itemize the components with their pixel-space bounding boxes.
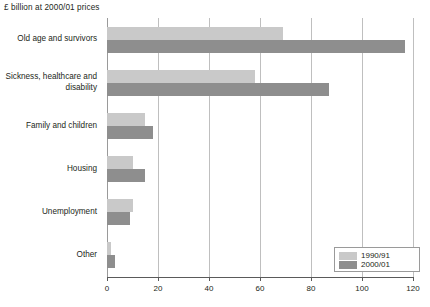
bar: [107, 169, 145, 182]
chart-legend: 1990/91 2000/01: [334, 247, 420, 272]
category-label: Old age and survivors: [1, 34, 97, 45]
legend-item-1: 2000/01: [339, 260, 390, 269]
tick-mark-80: [311, 277, 312, 281]
tick-mark-60: [260, 277, 261, 281]
legend-item-0: 1990/91: [339, 251, 390, 260]
x-tick-label-80: 80: [307, 284, 316, 293]
x-tick-label-120: 120: [406, 284, 419, 293]
category-label: Housing: [1, 164, 97, 175]
legend-swatch-icon-1: [339, 261, 357, 269]
legend-label-1: 2000/01: [361, 260, 390, 269]
bar: [107, 70, 255, 83]
bar: [107, 83, 329, 96]
chart-title: £ billion at 2000/01 prices: [4, 3, 100, 12]
bar: [107, 126, 153, 139]
x-tick-label-40: 40: [205, 284, 214, 293]
bar: [107, 156, 133, 169]
tick-mark-20: [158, 277, 159, 281]
x-tick-label-60: 60: [256, 284, 265, 293]
category-label: Sickness, healthcare and disability: [1, 72, 97, 93]
x-tick-label-100: 100: [355, 284, 368, 293]
bar: [107, 27, 283, 40]
tick-mark-120: [413, 277, 414, 281]
bar: [107, 113, 145, 126]
bar: [107, 242, 111, 255]
gridline-60: [260, 18, 261, 277]
bar: [107, 199, 133, 212]
gridline-120: [413, 18, 414, 277]
bar: [107, 255, 115, 268]
category-label: Family and children: [1, 121, 97, 132]
gridline-0: [107, 18, 108, 277]
gridline-80: [311, 18, 312, 277]
bar: [107, 40, 405, 53]
bar-chart: £ billion at 2000/01 prices 020406080100…: [0, 0, 430, 307]
x-tick-label-20: 20: [154, 284, 163, 293]
legend-label-0: 1990/91: [361, 251, 390, 260]
legend-swatch-icon-0: [339, 252, 357, 260]
tick-mark-100: [362, 277, 363, 281]
gridline-20: [158, 18, 159, 277]
category-label: Other: [1, 250, 97, 261]
plot-area: [107, 18, 413, 277]
category-label: Unemployment: [1, 207, 97, 218]
gridline-100: [362, 18, 363, 277]
bar: [107, 212, 130, 225]
tick-mark-40: [209, 277, 210, 281]
tick-mark-0: [107, 277, 108, 281]
x-tick-label-0: 0: [105, 284, 109, 293]
gridline-40: [209, 18, 210, 277]
